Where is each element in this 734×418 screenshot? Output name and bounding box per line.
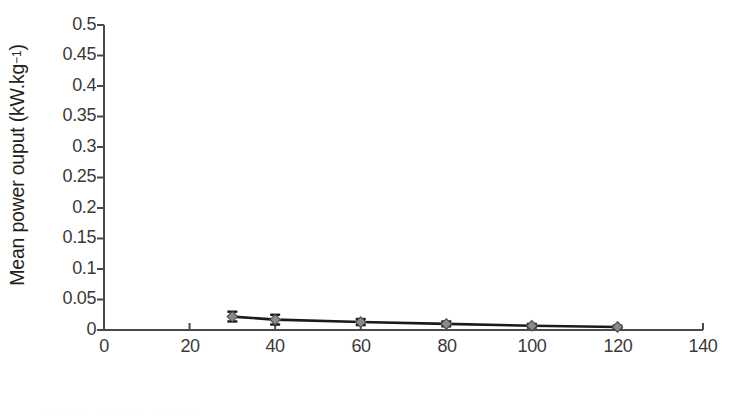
axes (104, 25, 703, 330)
chart-figure: Mean power ouput (kW.kg−1) 0.5 0.45 0.4 … (0, 0, 734, 418)
data-point-marker (227, 311, 237, 321)
plot-area (0, 0, 734, 418)
series-line (232, 317, 617, 327)
y-axis-ticks (97, 25, 104, 330)
data-point-marker (270, 314, 280, 324)
